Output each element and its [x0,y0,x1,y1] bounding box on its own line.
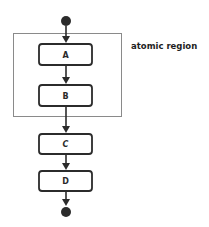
arrowhead-d-end [62,199,70,206]
node-b: B [39,85,92,106]
arrowhead-start-a [62,36,70,43]
node-c-label: C [63,140,69,149]
atomic-region-label: atomic region [131,41,197,51]
node-b-label: B [62,92,68,101]
arrowhead-a-b [62,77,70,84]
node-d-label: D [62,177,69,186]
node-a: A [39,44,92,65]
node-a-label: A [62,51,69,60]
arrowhead-c-d [62,163,70,170]
end-dot [61,207,71,217]
node-c: C [39,134,92,154]
arrowhead-b-c [62,126,70,133]
flow-diagram: atomic region A B C D [0,0,209,227]
node-d: D [39,171,92,191]
start-dot [61,16,71,26]
